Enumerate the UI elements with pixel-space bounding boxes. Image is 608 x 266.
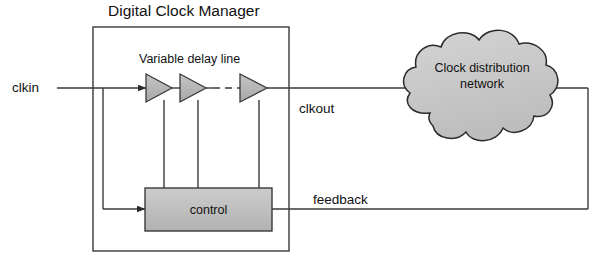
- delay-buffer-3-icon: [240, 74, 267, 102]
- variable-delay-line-label: Variable delay line: [139, 52, 240, 66]
- cloud-label-wrap: Clock distribution network: [408, 56, 556, 98]
- delay-buffer-2-icon: [180, 74, 206, 102]
- block-diagram: [0, 0, 608, 266]
- signal-label-clkin: clkin: [12, 80, 39, 95]
- delay-buffer-1-icon: [146, 74, 172, 102]
- control-block-label: control: [190, 203, 228, 217]
- signal-label-clkout: clkout: [299, 101, 334, 116]
- cloud-label-line-2: network: [460, 77, 504, 93]
- diagram-canvas: Digital Clock Manager Variable delay lin…: [0, 0, 608, 266]
- control-block-label-wrap: control: [145, 188, 272, 231]
- signal-label-feedback: feedback: [313, 192, 368, 207]
- cloud-label-line-1: Clock distribution: [434, 61, 529, 77]
- page-title: Digital Clock Manager: [108, 2, 260, 20]
